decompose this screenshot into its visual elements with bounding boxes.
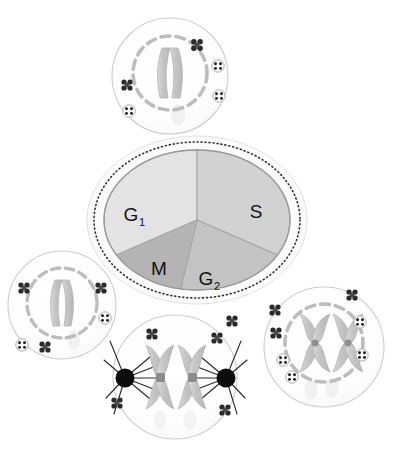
vacuole	[154, 410, 167, 430]
vacuole	[184, 410, 197, 430]
ribosome-cluster	[277, 354, 289, 366]
ribosome-cluster	[99, 312, 111, 324]
vacuole	[305, 380, 318, 400]
centromere	[345, 340, 352, 347]
centromere	[188, 373, 197, 382]
s-phase-cell	[264, 287, 384, 407]
ribosome-cluster	[356, 349, 368, 361]
ribosome-cluster	[16, 339, 28, 351]
ribosome-cluster	[213, 90, 225, 102]
centrosome-left	[116, 369, 135, 388]
pie-label-g1: G	[124, 204, 139, 225]
pie-label-s: S	[250, 201, 263, 222]
g1-interphase-cell	[112, 18, 228, 134]
ribosome-cluster	[123, 105, 135, 117]
centrosome-right	[217, 369, 236, 388]
ribosome-cluster	[286, 371, 298, 383]
cell-cycle-figure: G 1 S G 2 M	[0, 0, 400, 456]
centromere	[312, 340, 319, 347]
figure-canvas: G 1 S G 2 M	[0, 0, 400, 456]
centromere	[156, 373, 165, 382]
ribosome-cluster	[354, 316, 366, 328]
daughter-cell	[8, 251, 116, 359]
cell-cycle-pie: G 1 S G 2 M	[87, 136, 307, 304]
pie-label-g2: G	[199, 268, 214, 289]
pie-label-g2-subscript: 2	[214, 280, 220, 292]
ribosome-cluster	[212, 60, 224, 72]
pie-label-m: M	[151, 258, 167, 279]
pie-label-g1-subscript: 1	[139, 216, 145, 228]
